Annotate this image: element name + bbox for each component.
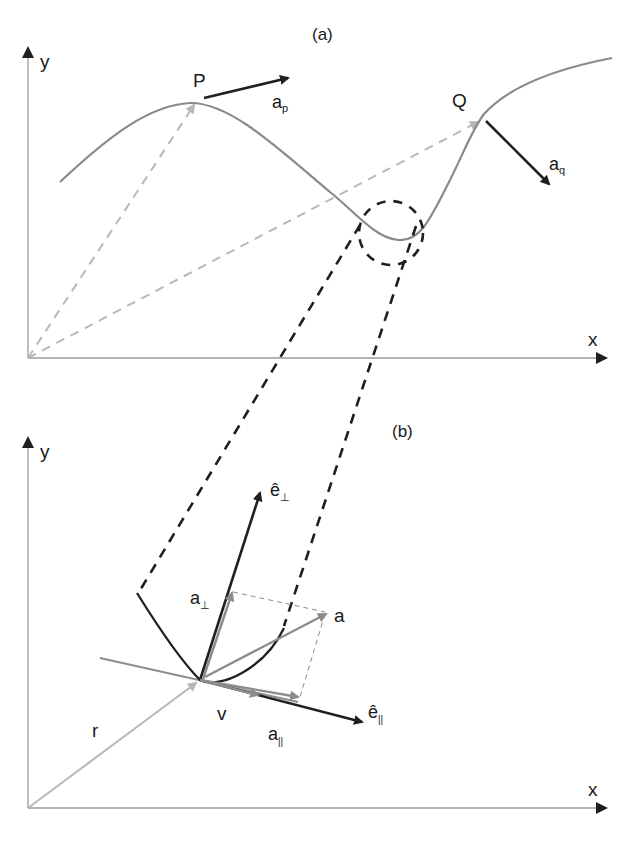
position-vector-q <box>28 122 478 358</box>
acceleration-parallel-vector <box>200 680 298 697</box>
panel-b: (b) y x r ê⊥ ê|| v a|| a⊥ a <box>28 422 606 808</box>
a-parallel-label: a|| <box>268 724 283 747</box>
trajectory-curve <box>60 58 612 240</box>
position-vector-r <box>28 683 196 808</box>
r-label: r <box>92 720 99 741</box>
point-p-label: P <box>193 70 206 91</box>
y-axis-label-b: y <box>40 441 50 462</box>
e-perp-label: ê⊥ <box>270 480 290 503</box>
v-label: v <box>217 703 227 724</box>
vector-aq-label: aq <box>549 154 565 176</box>
acceleration-vector-q <box>486 121 549 184</box>
position-vector-p <box>28 105 194 358</box>
e-parallel-label: ê|| <box>368 702 383 725</box>
x-axis-label-a: x <box>588 329 598 350</box>
point-q-label: Q <box>452 90 467 111</box>
panel-a-label: (a) <box>312 25 333 44</box>
y-axis-label-a: y <box>40 51 50 72</box>
panel-b-label: (b) <box>392 422 413 441</box>
a-label: a <box>334 605 345 626</box>
acceleration-vector <box>205 614 326 677</box>
zoomed-curve-segment <box>137 593 284 682</box>
vector-ap-label: ap <box>272 92 288 114</box>
guide-line-top <box>233 592 325 612</box>
a-perp-label: a⊥ <box>190 588 210 611</box>
x-axis-label-b: x <box>588 779 598 800</box>
projection-line-left <box>139 225 360 592</box>
kinematics-diagram: (a) y x P Q ap aq (b) y x <box>0 0 632 844</box>
panel-a: (a) y x P Q ap aq <box>28 25 612 358</box>
zoom-projection-lines <box>139 225 416 626</box>
